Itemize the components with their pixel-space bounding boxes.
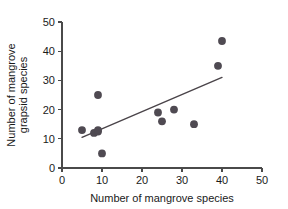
y-axis-title-line-2: grapsid species xyxy=(17,56,29,133)
scatter-plot-figure: 01020304050 01020304050 Number of mangro… xyxy=(0,0,288,209)
data-point xyxy=(214,62,222,70)
plot-canvas: 01020304050 01020304050 Number of mangro… xyxy=(0,0,288,209)
data-point xyxy=(94,126,102,134)
data-point xyxy=(94,91,102,99)
x-tick-label: 40 xyxy=(216,174,228,186)
x-axis-tick-labels: 01020304050 xyxy=(59,174,268,186)
data-point xyxy=(158,117,166,125)
x-tick-label: 30 xyxy=(176,174,188,186)
y-axis-title-line-1: Number of mangrove xyxy=(5,43,17,146)
data-point xyxy=(78,126,86,134)
y-tick-label: 30 xyxy=(43,74,55,86)
x-axis-title: Number of mangrove species xyxy=(90,192,234,204)
y-tick-label: 20 xyxy=(43,104,55,116)
data-point xyxy=(218,37,226,45)
x-tick-label: 10 xyxy=(96,174,108,186)
data-point xyxy=(170,106,178,114)
y-tick-label: 0 xyxy=(49,162,55,174)
y-axis-tick-labels: 01020304050 xyxy=(43,16,55,174)
y-tick-label: 50 xyxy=(43,16,55,28)
data-point xyxy=(98,150,106,158)
x-tick-label: 20 xyxy=(136,174,148,186)
y-tick-label: 40 xyxy=(43,45,55,57)
data-point-group xyxy=(78,37,226,157)
data-point xyxy=(154,109,162,117)
x-tick-label: 50 xyxy=(256,174,268,186)
x-tick-label: 0 xyxy=(59,174,65,186)
axis-tick-marks xyxy=(58,22,262,172)
y-tick-label: 10 xyxy=(43,133,55,145)
data-point xyxy=(190,120,198,128)
regression-trendline xyxy=(82,77,222,137)
